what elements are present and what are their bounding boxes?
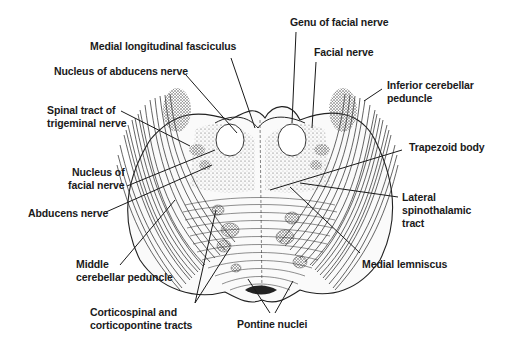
label-medial-lemniscus: Medial lemniscus (362, 258, 447, 271)
label-medial-longitudinal-fasciculus: Medial longitudinal fasciculus (90, 40, 236, 53)
label-genu-of-facial-nerve: Genu of facial nerve (290, 16, 388, 29)
label-abducens-nerve: Abducens nerve (28, 207, 108, 220)
label-pontine-nuclei: Pontine nuclei (237, 318, 307, 331)
label-corticospinal-corticopontine-tracts: Corticospinal and corticopontine tracts (90, 306, 192, 332)
label-nucleus-of-facial-nerve: Nucleus of facial nerve (68, 166, 125, 192)
label-nucleus-of-abducens-nerve: Nucleus of abducens nerve (54, 65, 188, 78)
pons-diagram: Medial longitudinal fasciculus Genu of f… (0, 0, 512, 353)
label-trapezoid-body: Trapezoid body (409, 141, 485, 154)
label-middle-cerebellar-peduncle: Middle cerebellar peduncle (76, 258, 173, 284)
label-facial-nerve: Facial nerve (314, 46, 374, 59)
label-spinal-tract-of-trigeminal-nerve: Spinal tract of trigeminal nerve (47, 104, 127, 130)
label-inferior-cerebellar-peduncle: Inferior cerebellar peduncle (387, 79, 474, 105)
label-lateral-spinothalamic-tract: Lateral spinothalamic tract (402, 191, 471, 230)
